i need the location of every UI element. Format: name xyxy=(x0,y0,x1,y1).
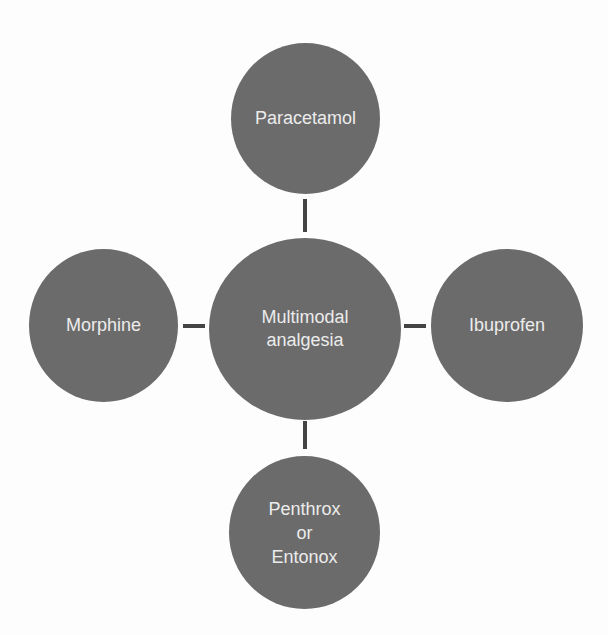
node-label-line-1: Multimodal xyxy=(261,306,348,329)
node-label-line-2: analgesia xyxy=(261,329,348,352)
node-multimodal-analgesia: Multimodal analgesia xyxy=(209,238,401,420)
connector-top xyxy=(303,199,307,232)
node-paracetamol: Paracetamol xyxy=(231,43,380,194)
node-label: Ibuprofen xyxy=(469,314,545,337)
diagram-canvas: Paracetamol Multimodal analgesia Morphin… xyxy=(0,0,608,635)
node-label-line-3: Entonox xyxy=(268,545,340,569)
connector-right xyxy=(404,324,426,328)
node-label: Paracetamol xyxy=(255,107,356,130)
node-label-line-1: Penthrox xyxy=(268,497,340,521)
node-morphine: Morphine xyxy=(29,249,178,402)
node-label: Morphine xyxy=(66,314,141,337)
connector-bottom xyxy=(303,421,307,449)
node-label-line-2: or xyxy=(268,521,340,545)
node-ibuprofen: Ibuprofen xyxy=(431,249,583,402)
connector-left xyxy=(183,324,205,328)
node-penthrox-or-entonox: Penthrox or Entonox xyxy=(229,456,380,609)
